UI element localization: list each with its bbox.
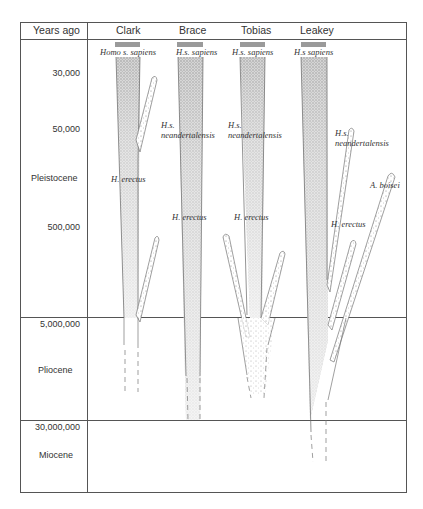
brace-sapiens-label: H.s. sapiens xyxy=(176,47,217,57)
leakey-neandertalensis-label-2: neandertalensis xyxy=(335,138,389,148)
brace-neandertalensis-label-1: H.s. xyxy=(161,120,175,130)
clark-lineage xyxy=(116,57,159,392)
leakey-lineage xyxy=(301,57,395,462)
brace-neandertalensis-label-2: neandertalensis xyxy=(161,130,215,140)
tobias-sapiens-label: H.s. sapiens xyxy=(232,47,273,57)
lineage-drawing xyxy=(0,0,423,509)
leakey-boisei-label: A. boisei xyxy=(370,180,400,190)
leakey-neandertalensis-label-1: H.s. xyxy=(335,128,349,138)
leakey-sapiens-label: H.s sapiens xyxy=(294,47,333,57)
tobias-neandertalensis-label-2: neandertalensis xyxy=(228,130,282,140)
tobias-lineage xyxy=(223,57,285,398)
brace-erectus-label: H. erectus xyxy=(172,212,207,222)
tobias-erectus-label: H. erectus xyxy=(234,212,269,222)
brace-lineage xyxy=(178,57,203,420)
clark-sapiens-label: Homo s. sapiens xyxy=(100,47,156,57)
clark-erectus-label: H. erectus xyxy=(111,174,146,184)
tobias-neandertalensis-label-1: H.s. xyxy=(228,120,242,130)
leakey-erectus-label: H. erectus xyxy=(331,219,366,229)
